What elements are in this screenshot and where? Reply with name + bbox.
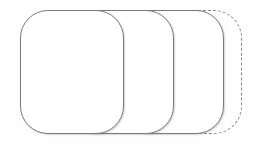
card-stack-canvas: Ask bbox=[0, 0, 262, 148]
card-layer-1-label-wrap bbox=[21, 11, 123, 133]
card-layer-1[interactable] bbox=[20, 10, 124, 134]
